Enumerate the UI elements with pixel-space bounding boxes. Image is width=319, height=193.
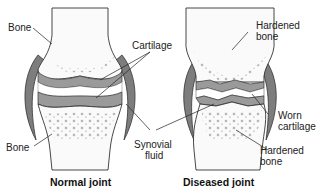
caption-normal-joint: Normal joint bbox=[50, 176, 111, 188]
label-synovial-line2: fluid bbox=[145, 150, 163, 161]
label-synovial-line1: Synovial bbox=[134, 139, 172, 150]
label-hardened-bottom-line1: Hardened bbox=[260, 145, 304, 156]
label-bone-top: Bone bbox=[8, 22, 31, 33]
joint-diagram: Bone Cartilage Bone Normal joint Synovia… bbox=[0, 0, 319, 193]
label-bone-bottom: Bone bbox=[6, 142, 29, 153]
normal-joint bbox=[25, 8, 150, 170]
caption-diseased-joint: Diseased joint bbox=[183, 176, 254, 188]
label-hardened-top-line2: bone bbox=[256, 31, 278, 42]
label-hardened-bottom-line2: bone bbox=[260, 156, 282, 167]
label-hardened-top-line1: Hardened bbox=[256, 20, 300, 31]
label-worn-line1: Worn bbox=[278, 110, 302, 121]
label-cartilage: Cartilage bbox=[132, 40, 172, 51]
label-worn-line2: cartilage bbox=[278, 121, 316, 132]
